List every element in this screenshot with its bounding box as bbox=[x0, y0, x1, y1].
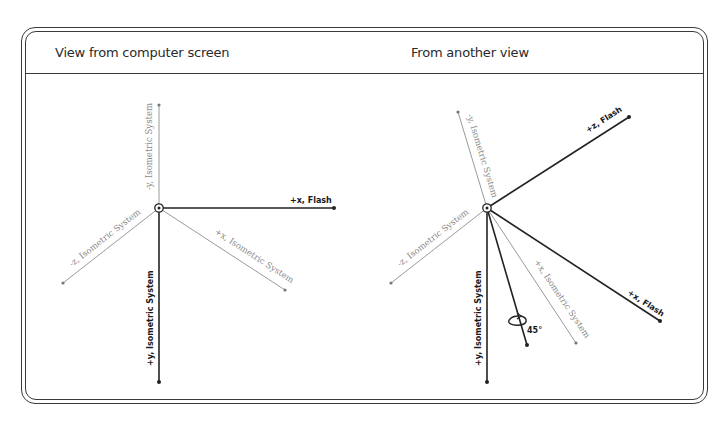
left-diagram: -y, Isometric System +x, Flash +x, Isome… bbox=[61, 103, 336, 384]
right-diagram: -y, Isometric System +z, Flash +x, Flash… bbox=[389, 104, 666, 384]
label-pos-y-iso-right: +y, Isometric System bbox=[474, 271, 483, 366]
axes-diagram: -y, Isometric System +x, Flash +x, Isome… bbox=[0, 0, 720, 431]
label-pos-y-iso-left: +y, Isometric System bbox=[146, 271, 155, 366]
label-neg-z-iso-right: -z, Isometric System bbox=[395, 207, 470, 269]
label-neg-y-iso-left: -y, Isometric System bbox=[144, 103, 154, 190]
label-pos-x-flash-left: +x, Flash bbox=[290, 196, 332, 205]
label-pos-z-flash-right: +z, Flash bbox=[584, 104, 624, 134]
label-neg-y-iso-right: -y, Isometric System bbox=[465, 113, 500, 199]
label-pos-x-iso-left: +x, Isometric System bbox=[213, 226, 296, 285]
label-neg-z-iso-left: -z, Isometric System bbox=[67, 207, 142, 269]
label-rotation-angle: 45° bbox=[527, 326, 542, 335]
